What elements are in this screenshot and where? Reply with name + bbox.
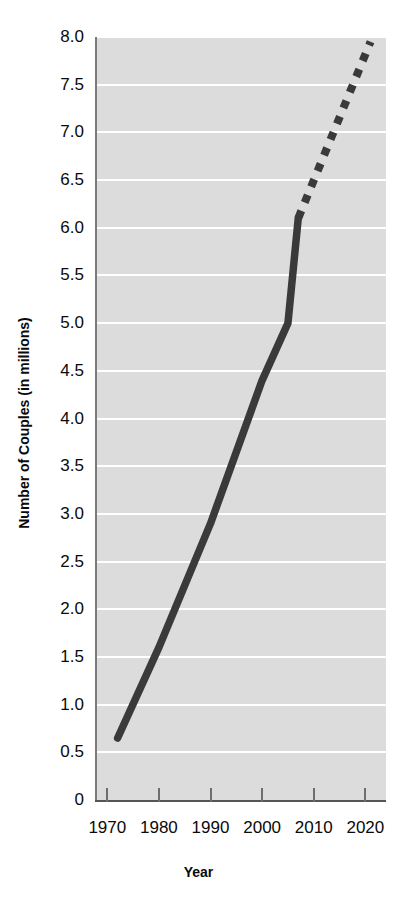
gridline [97,36,386,38]
x-axis-tick [364,788,366,802]
gridline [97,84,386,86]
x-axis-tick-label: 1990 [183,818,239,838]
x-axis-title: Year [0,864,397,880]
y-axis-tick-label: 6.5 [36,171,84,188]
x-axis-tick-label: 1970 [79,818,135,838]
y-axis-tick-label: 2.5 [36,553,84,570]
cropped-caption-sliver [95,893,355,905]
gridline [97,418,386,420]
y-axis-title: Number of Couples (in millions) [16,253,32,593]
cropped-title-sliver [215,0,390,9]
x-axis-tick-label: 1980 [131,818,187,838]
gridline [97,704,386,706]
gridline [97,322,386,324]
gridline [97,370,386,372]
y-axis-tick-label: 0.5 [36,743,84,760]
y-axis-tick-label: 8.0 [36,28,84,45]
y-axis-tick-label: 4.5 [36,362,84,379]
gridline [97,274,386,276]
x-axis-tick [313,788,315,802]
y-axis-tick-label: 2.0 [36,600,84,617]
y-axis-tick-label: 7.0 [36,123,84,140]
y-axis-tick-label: 1.5 [36,648,84,665]
gridline [97,656,386,658]
gridline [97,131,386,133]
chart-figure: 00.51.01.52.02.53.03.54.04.55.05.56.06.5… [0,0,397,910]
y-axis-tick-label: 5.0 [36,314,84,331]
gridline [97,561,386,563]
y-axis-tick-label: 6.0 [36,219,84,236]
x-axis-tick [210,788,212,802]
y-axis-tick-label: 7.5 [36,76,84,93]
x-axis-tick [261,788,263,802]
x-axis-tick-label: 2010 [286,818,342,838]
plot-area [97,37,386,800]
x-axis-tick-label: 2000 [234,818,290,838]
x-axis-tick-label: 2020 [337,818,393,838]
y-axis-tick-label: 1.0 [36,696,84,713]
x-axis-tick [158,788,160,802]
gridline [97,179,386,181]
x-axis-line [95,800,386,802]
y-axis-tick-label: 0 [36,791,84,808]
gridline [97,608,386,610]
y-axis-tick-label: 4.0 [36,410,84,427]
gridline [97,751,386,753]
y-axis-tick-label: 3.0 [36,505,84,522]
x-axis-tick [106,788,108,802]
y-axis-tick-label: 3.5 [36,457,84,474]
gridline [97,513,386,515]
gridline [97,465,386,467]
y-axis-line [95,37,97,802]
y-axis-tick-label: 5.5 [36,266,84,283]
gridline [97,227,386,229]
